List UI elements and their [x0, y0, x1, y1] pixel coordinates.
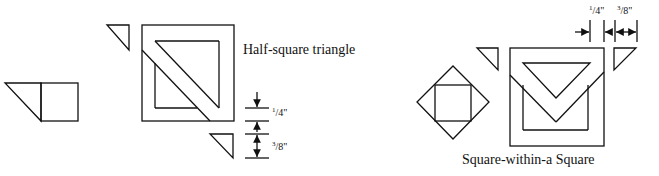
hst-dimension-markers — [245, 92, 269, 158]
hst-finished-unit — [5, 83, 78, 121]
hst-cut-triangle-top — [107, 25, 129, 50]
quilt-diagram-canvas — [0, 0, 659, 176]
hst-cut-triangle-bottom — [210, 134, 233, 158]
swas-caption: Square-within-a Square — [462, 152, 595, 168]
swas-seam-allowance-label: 1/4" — [589, 4, 604, 16]
swas-cut-square — [510, 48, 604, 146]
hst-seam-allowance-label: 1/4" — [272, 106, 287, 118]
hst-extra-allowance-label: 3/8" — [272, 140, 287, 152]
swas-cut-triangle-right — [614, 48, 636, 70]
swas-extra-allowance-label: 3/8" — [617, 4, 632, 16]
swas-cut-triangle-left — [477, 48, 498, 70]
swas-dimension-markers — [575, 20, 637, 42]
hst-caption: Half-square triangle — [243, 42, 355, 58]
swas-finished-unit — [417, 66, 489, 139]
hst-cut-square — [142, 25, 234, 121]
